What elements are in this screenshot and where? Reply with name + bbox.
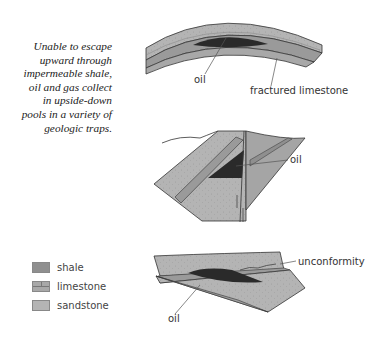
fault-oil-label: oil — [290, 154, 302, 165]
unconformity-label: unconformity — [298, 256, 365, 267]
fault-trap-diagram — [154, 131, 305, 222]
sandstone-swatch-icon — [32, 300, 50, 311]
anticline-oil-label: oil — [194, 74, 206, 85]
unconformity-oil-label: oil — [168, 313, 180, 324]
fractured-limestone-label: fractured limestone — [250, 85, 348, 96]
legend: shale limestone sandstone — [32, 258, 109, 315]
anticline-trap-diagram — [146, 23, 322, 86]
unconformity-trap-diagram — [154, 252, 305, 314]
legend-item-shale: shale — [32, 258, 109, 276]
legend-item-limestone: limestone — [32, 277, 109, 295]
shale-swatch-icon — [32, 262, 50, 273]
limestone-swatch-icon — [32, 281, 50, 292]
legend-item-sandstone: sandstone — [32, 296, 109, 314]
